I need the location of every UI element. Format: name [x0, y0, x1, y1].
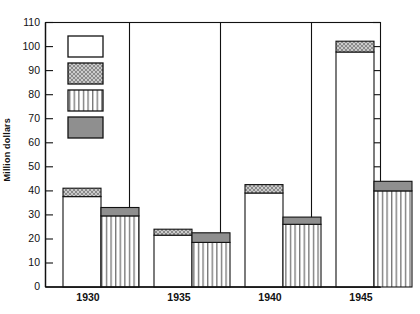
- segment-imports-foreign: [101, 216, 139, 287]
- segment-imports-territories: [283, 217, 321, 224]
- segment-exports-territories: [63, 188, 101, 196]
- bar-1940-exports[interactable]: [245, 185, 283, 287]
- segment-exports-territories: [336, 41, 374, 52]
- bar-1930-imports[interactable]: [101, 208, 139, 288]
- segment-imports-territories: [192, 233, 230, 243]
- bar-1935-imports[interactable]: [192, 233, 230, 287]
- bar-1930-exports[interactable]: [63, 188, 101, 287]
- bar-1945-exports[interactable]: [336, 41, 374, 287]
- chart-canvas: [0, 0, 420, 314]
- bar-group-1935: [154, 229, 230, 287]
- segment-imports-territories: [374, 181, 412, 191]
- segment-exports-territories: [154, 229, 192, 235]
- swatch-exports-foreign: [68, 36, 103, 57]
- segment-imports-foreign: [283, 224, 321, 287]
- segment-exports-foreign: [63, 197, 101, 287]
- segment-imports-foreign: [192, 242, 230, 287]
- segment-imports-territories: [101, 208, 139, 216]
- bar-1940-imports[interactable]: [283, 217, 321, 287]
- segment-exports-foreign: [245, 193, 283, 287]
- swatch-imports-territories: [68, 117, 103, 138]
- segment-exports-territories: [245, 185, 283, 193]
- swatch-exports-territories: [68, 63, 103, 84]
- bar-group-1945: [336, 41, 412, 287]
- bar-chart: Million dollars 110 100 90 80 70 60 50 4…: [0, 0, 420, 314]
- segment-imports-foreign: [374, 191, 412, 287]
- segment-exports-foreign: [154, 235, 192, 287]
- bar-1935-exports[interactable]: [154, 229, 192, 287]
- segment-exports-foreign: [336, 52, 374, 287]
- swatch-imports-foreign: [68, 90, 103, 111]
- bar-1945-imports[interactable]: [374, 181, 412, 287]
